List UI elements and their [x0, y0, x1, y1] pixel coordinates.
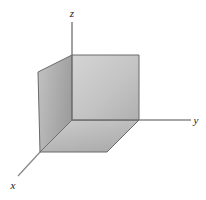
- z-axis-label: z: [69, 7, 75, 19]
- x-axis-line: [18, 151, 41, 176]
- y-axis-label: y: [193, 114, 199, 126]
- coordinate-axes-figure: z y x: [0, 0, 206, 200]
- box-front-face: [72, 55, 139, 120]
- x-axis-label: x: [10, 179, 16, 191]
- figure-canvas: z y x: [0, 0, 206, 200]
